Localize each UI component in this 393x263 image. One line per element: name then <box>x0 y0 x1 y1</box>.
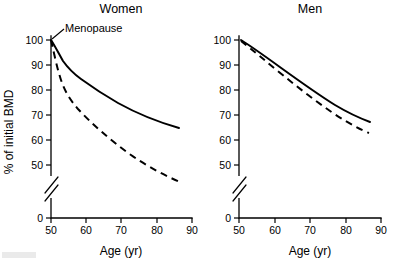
y-axis-label: % of initial BMD <box>2 89 16 174</box>
x-axis-label-women: Age (yr) <box>100 244 143 258</box>
y-tick-label-60: 60 <box>31 134 43 146</box>
y-tick-label-men-90: 90 <box>219 59 231 71</box>
panel-women: Women % of initial BMD 100 90 80 70 60 5… <box>2 2 198 258</box>
axis-lines-men <box>239 36 381 218</box>
x-axis-label-men: Age (yr) <box>289 244 332 258</box>
y-tick-label-men-80: 80 <box>219 84 231 96</box>
x-tick-label-men-70: 70 <box>304 224 316 236</box>
x-tick-label-70: 70 <box>115 224 127 236</box>
curve-women-dashed <box>51 40 180 182</box>
x-tick-label-90: 90 <box>186 224 198 236</box>
y-tick-label-70: 70 <box>31 109 43 121</box>
y-tick-label-men-50: 50 <box>219 159 231 171</box>
x-tick-label-50: 50 <box>45 224 57 236</box>
menopause-annotation-label: Menopause <box>65 22 123 34</box>
chart-canvas: Women % of initial BMD 100 90 80 70 60 5… <box>0 0 393 263</box>
y-tick-label-men-100: 100 <box>213 34 231 46</box>
x-tick-label-80: 80 <box>151 224 163 236</box>
panel-title-women: Women <box>100 2 143 16</box>
y-tick-label-80: 80 <box>31 84 43 96</box>
x-tick-label-60: 60 <box>80 224 92 236</box>
y-tick-label-men-60: 60 <box>219 134 231 146</box>
panel-men: Men 100 90 80 70 60 50 0 <box>213 2 387 258</box>
panel-title-men: Men <box>298 2 322 16</box>
x-tick-label-men-60: 60 <box>269 224 281 236</box>
x-tick-label-men-80: 80 <box>340 224 352 236</box>
x-tick-label-men-90: 90 <box>375 224 387 236</box>
curve-men-dashed <box>241 41 369 133</box>
scan-edge-artifact <box>2 252 36 258</box>
x-tick-label-men-50: 50 <box>233 224 245 236</box>
bmd-figure: Women % of initial BMD 100 90 80 70 60 5… <box>0 0 393 263</box>
y-tick-label-90: 90 <box>31 59 43 71</box>
menopause-leader-line <box>52 29 64 39</box>
x-ticks-women <box>51 218 192 223</box>
curve-women-solid <box>51 40 179 128</box>
y-tick-label-0: 0 <box>37 212 43 224</box>
y-tick-label-men-70: 70 <box>219 109 231 121</box>
y-axis-break-women <box>45 176 58 201</box>
curve-men-solid <box>241 40 370 122</box>
y-axis-break-men <box>233 176 246 201</box>
axis-lines-women <box>51 36 192 218</box>
y-tick-label-men-0: 0 <box>225 212 231 224</box>
y-tick-label-100: 100 <box>25 34 43 46</box>
y-tick-label-50: 50 <box>31 159 43 171</box>
x-ticks-men <box>239 218 381 223</box>
